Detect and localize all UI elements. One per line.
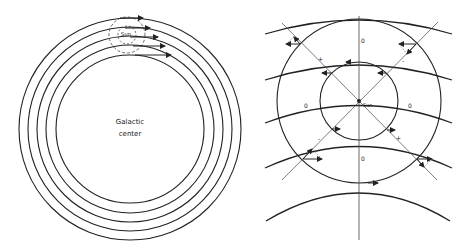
right-figure: Sun 0 0 0 0 + - + - [265, 16, 452, 240]
sign-label-upper-left: + [318, 55, 323, 62]
sun-label-left: Sun [121, 31, 132, 37]
orbit-arc-upper [265, 65, 452, 80]
orbit-circle-1 [19, 18, 241, 240]
zero-label-top: 0 [361, 37, 365, 44]
sun-label-right: Sun [363, 102, 373, 108]
galactic-center-label-1: Galactic [116, 118, 144, 126]
orbit-arc-top [265, 20, 452, 34]
sun-dot [357, 99, 361, 103]
orbit-circle-4 [46, 45, 214, 213]
zero-label-right: 0 [408, 102, 412, 109]
orbit-arc-bottom [266, 193, 450, 221]
diagram-canvas: Sun Galactic center Sun 0 0 0 0 + - + - [0, 0, 472, 247]
sign-label-upper-right: - [402, 57, 404, 64]
sign-label-lower-right: + [396, 134, 401, 141]
orbit-arc-middle [265, 106, 452, 124]
left-figure: Sun Galactic center [19, 17, 241, 240]
orbit-circle-3 [37, 36, 223, 222]
zero-label-bottom: 0 [361, 155, 365, 162]
orbit-circle-2 [28, 27, 232, 231]
zero-label-left: 0 [304, 102, 308, 109]
galactic-center-label-2: center [119, 130, 142, 138]
sign-label-lower-left: - [318, 135, 320, 142]
orbit-circle-5 [56, 55, 204, 203]
